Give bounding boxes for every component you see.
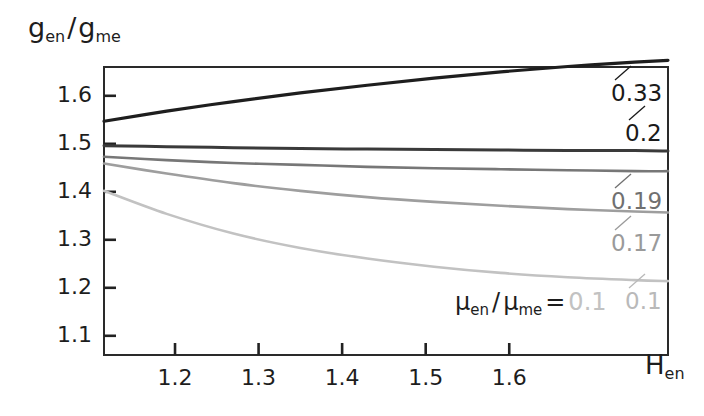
legend-value: 0.1 <box>568 288 606 316</box>
y-axis-tick-label: 1.6 <box>28 84 92 106</box>
y-axis-tick-label: 1.3 <box>28 228 92 250</box>
data-curve <box>104 191 668 281</box>
x-axis-tick-label: 1.4 <box>307 367 377 389</box>
y-axis-tick-label: 1.2 <box>28 276 92 298</box>
y-axis-tick-label: 1.5 <box>28 132 92 154</box>
y-axis-title-sub1: en <box>45 27 65 46</box>
curve-value-label: 0.17 <box>611 232 662 255</box>
x-axis-title: Hen <box>645 352 685 382</box>
chart-figure: gen/gme Hen 1.11.21.31.41.51.6 1.21.31.4… <box>0 0 704 416</box>
curve-value-label: 0.33 <box>611 82 662 105</box>
x-axis-title-sub: en <box>665 364 685 383</box>
legend-base2: μ <box>503 288 518 316</box>
y-axis-tick-label: 1.4 <box>28 180 92 202</box>
legend-sub1: en <box>470 301 489 319</box>
legend-sub2: me <box>518 301 542 319</box>
plot-area <box>0 0 704 416</box>
x-axis-tick-label: 1.2 <box>140 367 210 389</box>
curve-value-label: 0.1 <box>625 290 662 313</box>
data-curves <box>104 60 668 281</box>
legend-separator: / <box>489 288 503 316</box>
y-axis-title: gen/gme <box>28 14 121 45</box>
y-axis-title-sub2: me <box>95 27 120 46</box>
x-axis-tick-label: 1.3 <box>224 367 294 389</box>
y-axis-title-base1: g <box>28 12 45 43</box>
x-axis-tick-label: 1.5 <box>391 367 461 389</box>
curve-value-label: 0.19 <box>611 190 662 213</box>
y-axis-title-base2: g <box>78 12 95 43</box>
legend: μen/μme=0.1 <box>455 290 607 318</box>
y-axis-title-separator: / <box>65 12 78 43</box>
x-axis-title-base: H <box>645 350 665 380</box>
data-curve <box>104 157 668 171</box>
data-curve <box>104 60 668 121</box>
axis-ticks <box>104 96 509 355</box>
data-curve <box>104 146 668 151</box>
legend-base1: μ <box>455 288 470 316</box>
x-axis-tick-label: 1.6 <box>474 367 544 389</box>
y-axis-tick-label: 1.1 <box>28 324 92 346</box>
legend-equals: = <box>542 288 568 316</box>
curve-value-label: 0.2 <box>625 122 662 145</box>
